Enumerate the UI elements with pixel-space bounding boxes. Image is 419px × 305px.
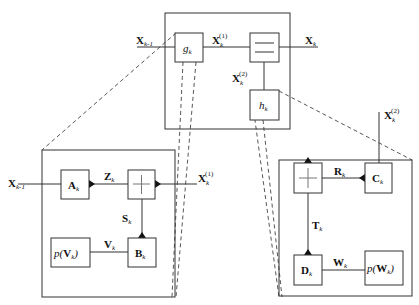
top-output-label: Xk [305, 34, 317, 48]
pv-node-label: p(Vk) [53, 247, 78, 261]
arrow-icon-d-up [304, 249, 312, 255]
top-block: gk hk Xk-1 Xk(1) Xk Xk(2) [136, 13, 318, 129]
arrow-icon-sum-out [155, 180, 161, 188]
left-detail-block: Ak Bk p(Vk) Xk-1 Zk Xk(1) Sk Vk [8, 150, 214, 297]
right-detail-block: Ck Dk p(Wk) Xk(2) Rk Tk Wk [279, 107, 412, 296]
zoom-line-right-outer [279, 91, 412, 160]
z-label: Zk [104, 170, 115, 184]
top-mid-label: Xk(1) [212, 32, 228, 49]
arrow-icon-b-up [138, 232, 146, 238]
zoom-line-left-outer [42, 33, 176, 150]
zoom-line-right-inner-a [251, 91, 279, 297]
right-input-label: Xk(2) [384, 107, 400, 124]
left-input-label: Xk-1 [8, 177, 25, 191]
t-label: Tk [312, 219, 323, 233]
top-input-label: Xk-1 [136, 34, 153, 48]
s-label: Sk [122, 212, 132, 226]
r-label: Rk [334, 165, 346, 179]
top-branch-label: Xk(2) [232, 70, 248, 87]
factor-graph-diagram: gk hk Xk-1 Xk(1) Xk Xk(2) Ak Bk p(Vk) Xk… [0, 0, 419, 305]
equality-node[interactable] [250, 33, 279, 62]
v-label: Vk [104, 238, 116, 252]
pw-node-label: p(Wk) [366, 262, 394, 276]
w-label: Wk [333, 256, 348, 270]
arrow-icon-c-in [359, 174, 365, 182]
zoom-line-left-inner-a [172, 62, 183, 297]
zoom-lines [42, 33, 412, 297]
zoom-line-left-inner-b [176, 62, 196, 297]
arrow-icon-a-out [89, 180, 95, 188]
left-output-label: Xk(1) [198, 170, 214, 187]
